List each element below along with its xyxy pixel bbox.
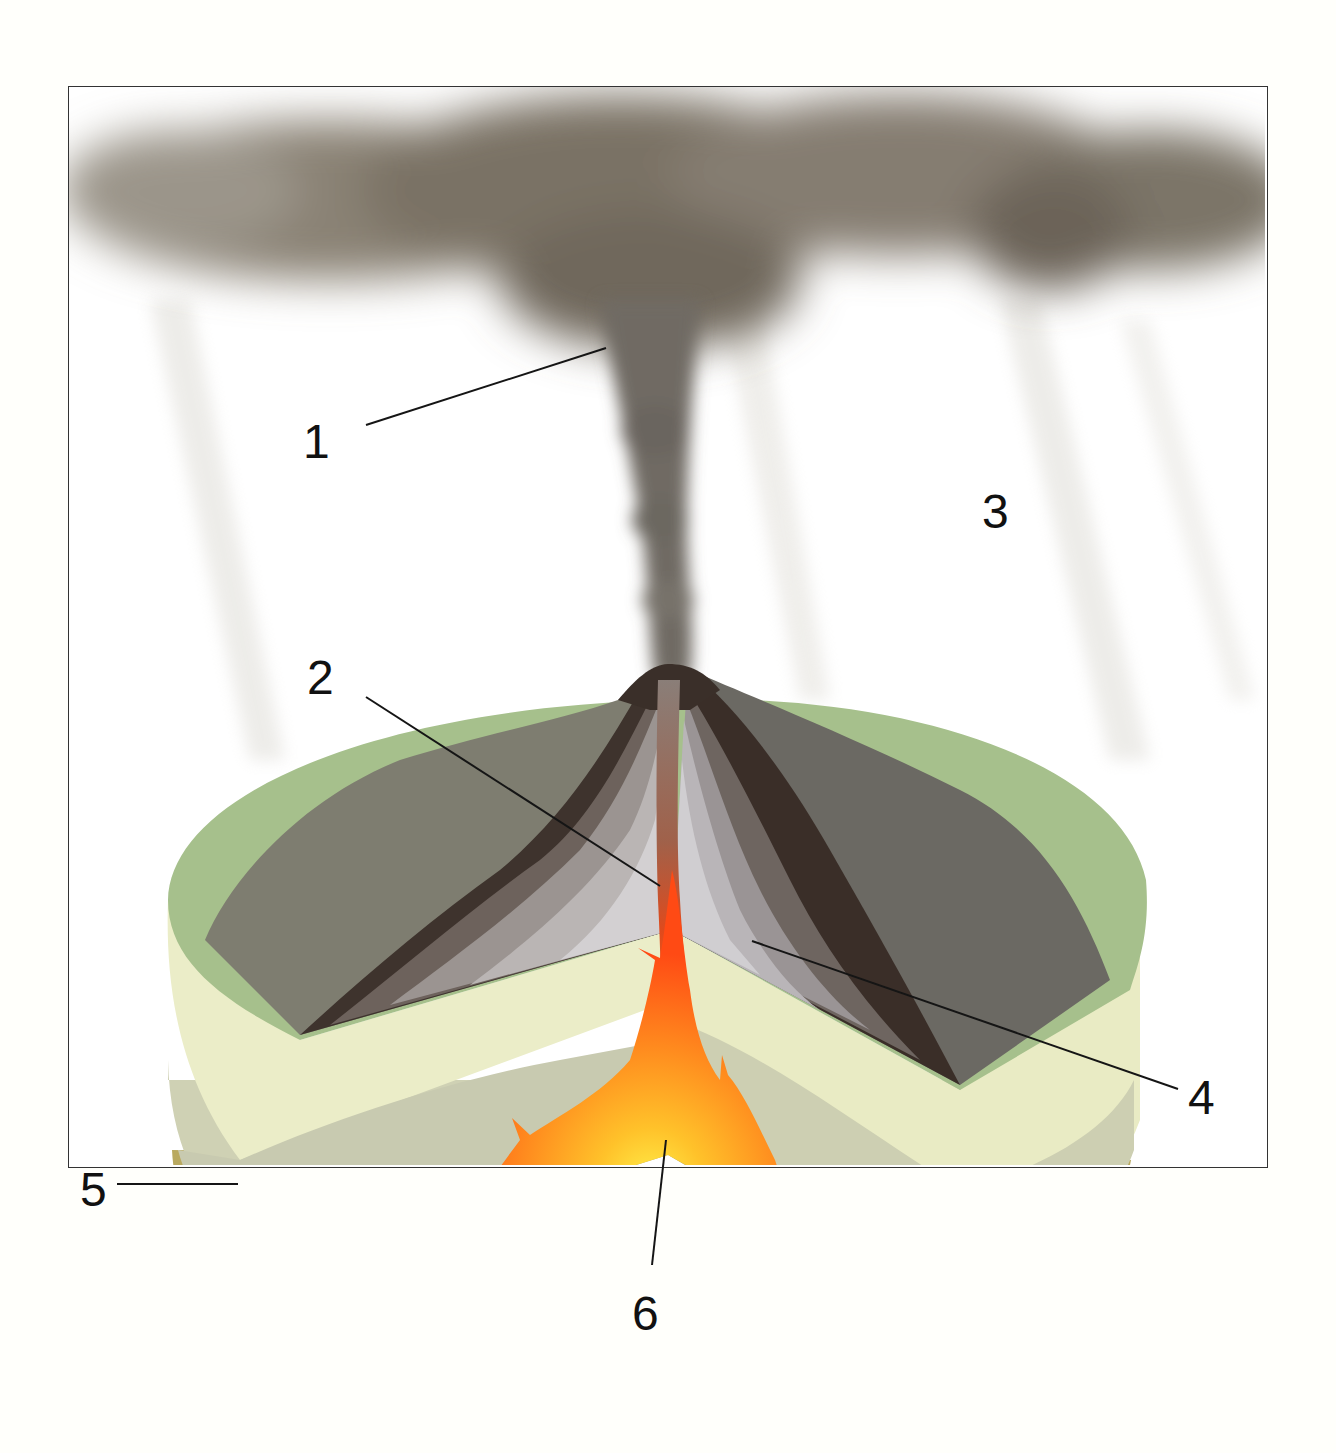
label-6-magma-chamber: 6: [632, 1290, 659, 1338]
label-4-cone-layers: 4: [1188, 1074, 1215, 1122]
label-1-eruption-column: 1: [303, 418, 330, 466]
eruption-column: [600, 300, 700, 680]
label-5-bedrock: 5: [80, 1166, 107, 1214]
volcano-illustration: [0, 0, 1336, 1453]
label-3-ash-fall: 3: [982, 488, 1009, 536]
label-2-conduit: 2: [307, 654, 334, 702]
leader-line-1: [366, 348, 606, 425]
